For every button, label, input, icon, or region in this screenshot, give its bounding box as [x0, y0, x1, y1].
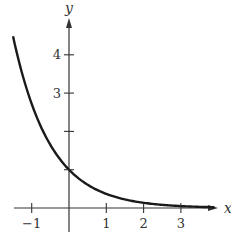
- x-tick-label: −1: [22, 216, 41, 231]
- x-tick-label: 2: [139, 216, 147, 231]
- x-tick-label: 3: [177, 216, 185, 231]
- x-axis-label: x: [224, 200, 231, 216]
- exponential-decay-plot: −112334 x y: [0, 0, 231, 243]
- x-tick-label: 1: [102, 216, 110, 231]
- y-axis-arrow-icon: [66, 18, 72, 28]
- y-tick-label: 3: [53, 86, 61, 101]
- decay-curve: [13, 36, 214, 207]
- y-tick-label: 4: [53, 47, 61, 62]
- axes: [14, 18, 218, 232]
- y-axis-label: y: [64, 0, 74, 16]
